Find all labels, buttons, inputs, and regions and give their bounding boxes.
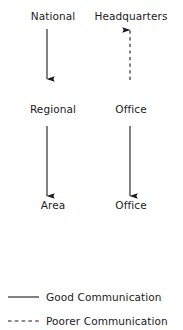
node-label-area: Area <box>41 199 66 211</box>
connector-layer <box>0 0 183 330</box>
legend-dashed-line-icon <box>8 316 40 326</box>
legend-item-poorer-communication: Poorer Communication <box>8 315 168 327</box>
legend-solid-line-icon <box>8 292 40 302</box>
legend-label-good-communication: Good Communication <box>46 291 162 303</box>
node-label-national: National <box>31 10 76 22</box>
legend-label-poorer-communication: Poorer Communication <box>46 315 168 327</box>
node-label-headquarters: Headquarters <box>94 10 167 22</box>
node-label-office-mid: Office <box>115 103 146 115</box>
node-label-regional: Regional <box>30 103 76 115</box>
legend-item-good-communication: Good Communication <box>8 291 162 303</box>
node-label-office-bottom: Office <box>115 199 146 211</box>
communication-flow-diagram: National Regional Area Headquarters Offi… <box>0 0 183 330</box>
